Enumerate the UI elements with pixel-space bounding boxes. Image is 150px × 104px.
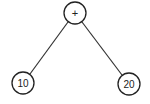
expression-tree-diagram: + 10 20 [0, 0, 150, 104]
edge-root-right [82, 22, 122, 75]
node-right: 20 [118, 73, 140, 95]
node-root-label: + [72, 7, 78, 19]
node-right-label: 20 [123, 79, 135, 90]
node-root: + [64, 2, 86, 24]
node-left: 10 [12, 72, 34, 94]
node-left-label: 10 [17, 78, 29, 89]
edge-root-left [30, 22, 68, 74]
